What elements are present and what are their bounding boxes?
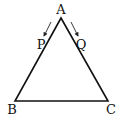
point-label-Q: Q: [76, 37, 87, 52]
vertex-label-B: B: [7, 102, 17, 117]
point-label-P: P: [37, 37, 46, 52]
arrow-A-to-Q: [71, 22, 78, 36]
arrow-A-to-P: [44, 22, 51, 36]
vertex-label-C: C: [106, 102, 116, 117]
vertex-label-A: A: [55, 2, 66, 17]
triangle-diagram: A P Q B C: [0, 0, 120, 126]
triangle-ABC: [15, 18, 108, 101]
